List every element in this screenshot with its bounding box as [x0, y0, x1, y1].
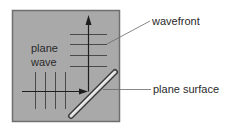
plane-wave-reflection-diagram: plane wave wavefront plane surface: [0, 0, 236, 129]
plane-wave-label-line2: wave: [30, 56, 57, 68]
wavefront-label: wavefront: [151, 15, 200, 27]
plane-surface-label: plane surface: [153, 83, 219, 95]
plane-wave-label-line1: plane: [31, 42, 58, 54]
